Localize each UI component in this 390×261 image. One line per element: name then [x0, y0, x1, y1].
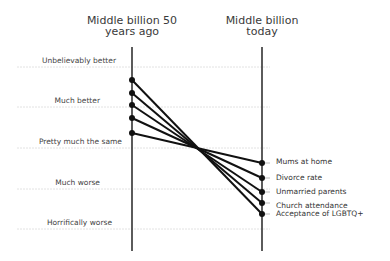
slope-lines [132, 80, 262, 214]
series-label-divorce-rate: Divorce rate [276, 174, 322, 182]
scale-label-much-worse: Much worse [0, 178, 100, 187]
scale-label-much-better: Much better [0, 96, 100, 105]
series-label-unmarried-parents: Unmarried parents [276, 188, 347, 196]
series-label-mums-at-home: Mums at home [276, 158, 332, 166]
series-label-acceptance-lgbtq: Acceptance of LGBTQ+ [276, 210, 364, 218]
scale-label-unbelievably-better: Unbelievably better [0, 56, 116, 65]
scale-label-horrifically-worse: Horrifically worse [0, 218, 112, 227]
line-acceptance-lgbtq [132, 80, 262, 214]
scale-label-pretty-much-the-same: Pretty much the same [0, 137, 122, 146]
